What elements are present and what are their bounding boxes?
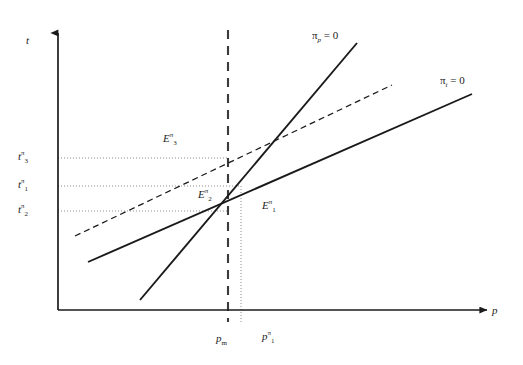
pi-t-zero-curve — [88, 94, 472, 262]
y-axis-label: t — [26, 35, 29, 46]
curve-label-pi-p-eq: = 0 — [321, 29, 338, 41]
x-tick-pm-sub: m — [222, 339, 227, 347]
equilibrium-label-E1: Eπ1 — [262, 200, 276, 211]
y-tick-t1: tπ1 — [18, 179, 28, 190]
phase-diagram: t p tπ3 tπ1 tπ2 pm pπ1 Eπ3 Eπ2 Eπ1 πp = … — [0, 0, 523, 365]
curve-label-pi-t-eq: = 0 — [448, 74, 465, 86]
y-tick-t3-sub: 3 — [25, 157, 29, 165]
equilibrium-label-E3: Eπ3 — [163, 133, 177, 144]
pi-p-zero-curve — [140, 43, 357, 300]
x-tick-p1: pπ1 — [262, 331, 275, 342]
equilibrium-E2-sub: 2 — [208, 195, 212, 203]
equilibrium-E1-sub: 1 — [272, 206, 276, 214]
equilibrium-E3-sub: 3 — [173, 139, 177, 147]
y-tick-t1-sub: 1 — [25, 185, 29, 193]
y-tick-t3: tπ3 — [18, 151, 28, 162]
horizontal-guides — [58, 158, 241, 211]
pi-t-zero-shifted-curve — [75, 85, 392, 236]
curve-label-pi-t-zero: πt = 0 — [440, 75, 465, 86]
y-tick-t2: tπ2 — [18, 204, 28, 215]
diagram-canvas — [0, 0, 523, 365]
x-tick-pm: pm — [216, 333, 227, 344]
equilibrium-label-E2: Eπ2 — [198, 189, 212, 200]
y-tick-t2-sub: 2 — [25, 210, 29, 218]
curve-label-pi-p-zero: πp = 0 — [312, 30, 338, 41]
x-tick-p1-sub: 1 — [271, 337, 275, 345]
x-axis-label: p — [492, 305, 498, 316]
